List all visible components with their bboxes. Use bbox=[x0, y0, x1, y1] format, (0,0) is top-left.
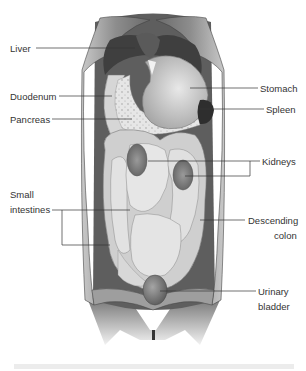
label-stomach: Stomach bbox=[260, 83, 298, 94]
label-urinary-bladder-1: Urinary bbox=[258, 286, 289, 297]
kidney-right bbox=[173, 160, 193, 190]
label-pancreas: Pancreas bbox=[10, 114, 50, 125]
kidney-left bbox=[127, 144, 147, 176]
label-descending-colon-1: Descending bbox=[248, 215, 298, 226]
label-spleen: Spleen bbox=[266, 104, 296, 115]
label-duodenum: Duodenum bbox=[10, 91, 56, 102]
label-descending-colon-2: colon bbox=[274, 230, 297, 241]
label-small-intestines-1: Small bbox=[10, 189, 34, 200]
label-kidneys: Kidneys bbox=[262, 156, 296, 167]
label-small-intestines-2: intestines bbox=[10, 204, 50, 215]
label-liver: Liver bbox=[10, 43, 31, 54]
abdominal-anatomy-illustration bbox=[0, 0, 306, 371]
caption-bar bbox=[14, 364, 294, 369]
urinary-bladder bbox=[143, 275, 167, 305]
label-urinary-bladder-2: bladder bbox=[258, 301, 290, 312]
